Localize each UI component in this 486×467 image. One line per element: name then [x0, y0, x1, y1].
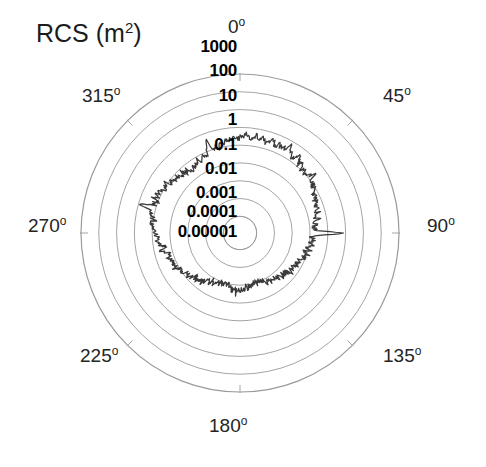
radial-0.1-label: 0.1 [214, 135, 237, 155]
radial-1000-label: 1000 [200, 37, 237, 57]
angle-45-value: 45 [383, 85, 404, 106]
degree-symbol-icon: o [60, 214, 67, 228]
angle-270-value: 270 [28, 215, 60, 236]
polar-plot-canvas [0, 0, 486, 467]
angle-tick-45 [347, 120, 353, 126]
angle-180-label: 180o [209, 415, 247, 437]
chart-title-paren: ) [133, 19, 141, 47]
polar-chart-figure: RCS (m2) 0o45o90o135o180o225o270o315o 10… [0, 0, 486, 467]
angle-135-value: 135 [383, 345, 415, 366]
polar-grid [80, 73, 400, 393]
degree-symbol-icon: o [404, 84, 411, 98]
angle-0-value: 0 [228, 16, 239, 37]
angle-tick-315 [127, 120, 133, 126]
angle-225-value: 225 [80, 345, 112, 366]
grid-circle-1 [134, 127, 345, 338]
angle-90-value: 90 [427, 215, 448, 236]
angle-0-label: 0o [228, 16, 245, 38]
angle-315-label: 315o [82, 85, 120, 107]
degree-symbol-icon: o [114, 84, 121, 98]
degree-symbol-icon: o [112, 344, 119, 358]
angle-180-value: 180 [209, 415, 241, 436]
degree-symbol-icon: o [415, 344, 422, 358]
radial-0.001-label: 0.001 [196, 183, 237, 203]
chart-title-exponent: 2 [125, 19, 133, 36]
angle-225-label: 225o [80, 345, 118, 367]
angle-315-value: 315 [82, 85, 114, 106]
angle-tick-135 [347, 340, 353, 346]
degree-symbol-icon: o [241, 414, 248, 428]
radial-1-label: 1 [228, 110, 237, 130]
angle-tick-225 [127, 340, 133, 346]
angle-135-label: 135o [383, 345, 421, 367]
radial-100-label: 100 [210, 61, 237, 81]
chart-title-text: RCS (m [36, 19, 125, 47]
radial-0.00001-label: 0.00001 [178, 222, 237, 242]
angle-45-label: 45o [383, 85, 411, 107]
degree-symbol-icon: o [239, 15, 246, 29]
chart-title: RCS (m2) [36, 19, 142, 48]
radial-10-label: 10 [219, 86, 237, 106]
degree-symbol-icon: o [448, 214, 455, 228]
angle-270-label: 270o [28, 215, 66, 237]
angle-90-label: 90o [427, 215, 455, 237]
radial-0.01-label: 0.01 [205, 159, 237, 179]
radial-0.0001-label: 0.0001 [187, 202, 237, 222]
